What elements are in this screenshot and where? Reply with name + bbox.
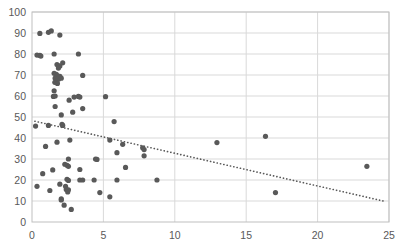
data-point	[66, 156, 71, 161]
data-point	[97, 190, 102, 195]
data-point	[57, 33, 62, 38]
data-point	[273, 190, 278, 195]
data-point	[80, 106, 85, 111]
data-point	[103, 94, 108, 99]
x-tick-label: 25	[383, 229, 395, 241]
data-point	[55, 81, 60, 86]
data-point	[59, 197, 64, 202]
data-point	[59, 76, 64, 81]
data-point	[46, 123, 51, 128]
data-point	[49, 28, 54, 33]
data-point	[114, 150, 119, 155]
y-tick-label: 100	[8, 6, 26, 18]
x-tick-labels: 0510152025	[29, 229, 395, 241]
y-tick-label: 70	[14, 69, 26, 81]
y-tick-label: 40	[14, 132, 26, 144]
horizontal-gridlines	[32, 12, 389, 201]
data-point	[50, 167, 55, 172]
y-tick-labels: 0102030405060708090100	[8, 6, 26, 228]
y-tick-label: 20	[14, 174, 26, 186]
data-point	[67, 138, 72, 143]
x-tick-label: 5	[100, 229, 106, 241]
data-point	[37, 31, 42, 36]
data-point	[123, 165, 128, 170]
data-point	[62, 203, 67, 208]
trendline	[35, 121, 383, 201]
data-point	[70, 110, 75, 115]
y-tick-label: 50	[14, 111, 26, 123]
data-point	[62, 162, 67, 167]
data-point	[154, 177, 159, 182]
data-point	[364, 164, 369, 169]
data-point	[52, 88, 57, 93]
data-point	[66, 178, 71, 183]
data-point	[56, 65, 61, 70]
data-point	[141, 147, 146, 152]
x-tick-label: 15	[240, 229, 252, 241]
data-point	[69, 207, 74, 212]
data-point	[114, 177, 119, 182]
data-point	[77, 94, 82, 99]
y-tick-label: 60	[14, 90, 26, 102]
data-point	[107, 138, 112, 143]
data-point	[120, 142, 125, 147]
x-tick-label: 0	[29, 229, 35, 241]
data-point	[107, 194, 112, 199]
data-point	[67, 98, 72, 103]
data-points	[33, 28, 369, 212]
data-point	[43, 144, 48, 149]
data-point	[33, 123, 38, 128]
data-point	[60, 60, 65, 65]
data-point	[214, 140, 219, 145]
data-point	[65, 189, 70, 194]
data-point	[47, 188, 52, 193]
data-point	[263, 134, 268, 139]
data-point	[80, 177, 85, 182]
data-point	[52, 51, 57, 56]
data-point	[80, 73, 85, 78]
x-tick-label: 20	[312, 229, 324, 241]
data-point	[38, 54, 43, 59]
data-point	[76, 51, 81, 56]
data-point	[77, 167, 82, 172]
y-tick-label: 10	[14, 195, 26, 207]
data-point	[60, 123, 65, 128]
scatter-chart: 0102030405060708090100 0510152025	[0, 0, 401, 246]
x-tick-label: 10	[169, 229, 181, 241]
y-tick-label: 30	[14, 153, 26, 165]
y-tick-label: 0	[20, 216, 26, 228]
y-tick-label: 90	[14, 27, 26, 39]
data-point	[59, 112, 64, 117]
data-point	[54, 140, 59, 145]
data-point	[92, 177, 97, 182]
trendline-path	[35, 121, 383, 201]
data-point	[53, 104, 58, 109]
data-point	[94, 157, 99, 162]
plot-svg: 0102030405060708090100 0510152025	[0, 0, 401, 246]
data-point	[57, 182, 62, 187]
data-point	[112, 119, 117, 124]
data-point	[34, 184, 39, 189]
data-point	[141, 153, 146, 158]
y-tick-label: 80	[14, 48, 26, 60]
data-point	[53, 93, 58, 98]
data-point	[40, 171, 45, 176]
